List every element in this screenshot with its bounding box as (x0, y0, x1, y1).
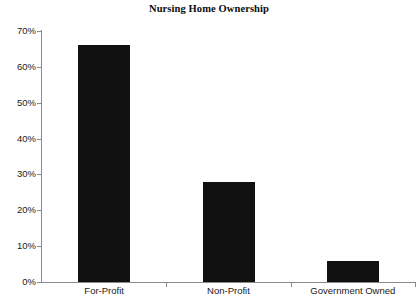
bar-government-owned (327, 261, 379, 283)
chart-title: Nursing Home Ownership (0, 3, 418, 14)
x-tick-label: Non-Profit (166, 285, 290, 297)
y-tick-label: 60% (2, 62, 36, 72)
bar-for-profit (78, 45, 130, 282)
y-tick-label: 70% (2, 26, 36, 36)
y-tick-label-wrap: 30% (0, 169, 36, 179)
y-tick-label: 30% (2, 169, 36, 179)
x-axis-line (41, 282, 416, 283)
y-tick-label-wrap: 70% (0, 26, 36, 36)
y-tick-label: 0% (2, 277, 36, 287)
x-tick-label: For-Profit (42, 285, 166, 297)
y-tick-label: 20% (2, 205, 36, 215)
x-divider-tick (415, 283, 416, 287)
y-tick-label-wrap: 20% (0, 205, 36, 215)
y-tick-mark (37, 282, 42, 283)
y-tick-label-wrap: 0% (0, 277, 36, 287)
y-tick-label-wrap: 40% (0, 134, 36, 144)
y-tick-label: 50% (2, 98, 36, 108)
y-tick-label-wrap: 60% (0, 62, 36, 72)
x-tick-label: Government Owned (291, 285, 415, 297)
y-tick-label: 40% (2, 134, 36, 144)
bar-non-profit (203, 182, 255, 282)
y-tick-label-wrap: 10% (0, 241, 36, 251)
y-tick-label: 10% (2, 241, 36, 251)
plot-area (42, 31, 415, 282)
y-tick-label-wrap: 50% (0, 98, 36, 108)
bar-chart-figure: Nursing Home Ownership 0%10%20%30%40%50%… (0, 0, 418, 302)
